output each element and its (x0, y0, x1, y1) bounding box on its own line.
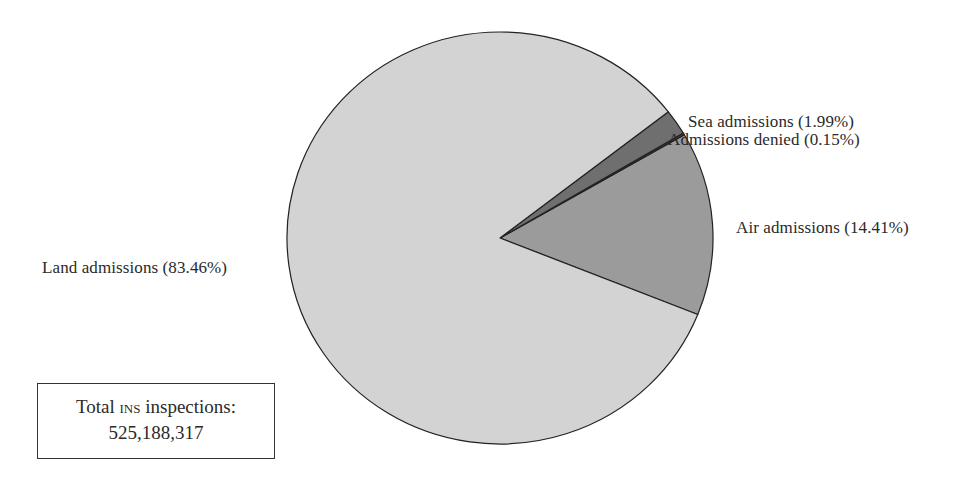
total-inspections-box: Total INS inspections: 525,188,317 (37, 383, 275, 459)
pie-slices (287, 32, 713, 444)
total-inspections-value: 525,188,317 (38, 420, 274, 446)
label-air-admissions: Air admissions (14.41%) (736, 218, 909, 238)
total-title-ins: INS (120, 396, 141, 417)
label-land-admissions: Land admissions (83.46%) (42, 258, 227, 278)
label-sea-admissions: Sea admissions (1.99%) (688, 112, 854, 132)
label-admissions-denied: Admissions denied (0.15%) (668, 130, 860, 150)
total-inspections-title: Total INS inspections: (38, 394, 274, 420)
total-title-prefix: Total (76, 396, 120, 417)
total-title-suffix: inspections: (140, 396, 236, 417)
